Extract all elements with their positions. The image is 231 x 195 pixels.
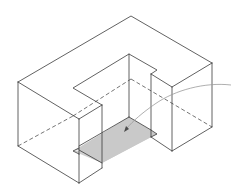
isometric-u-block-diagram bbox=[0, 0, 231, 195]
visible-edges bbox=[18, 16, 212, 183]
leader-arrow-curve bbox=[127, 84, 231, 128]
top-outline bbox=[18, 16, 212, 82]
notch-top-outline bbox=[73, 54, 157, 105]
